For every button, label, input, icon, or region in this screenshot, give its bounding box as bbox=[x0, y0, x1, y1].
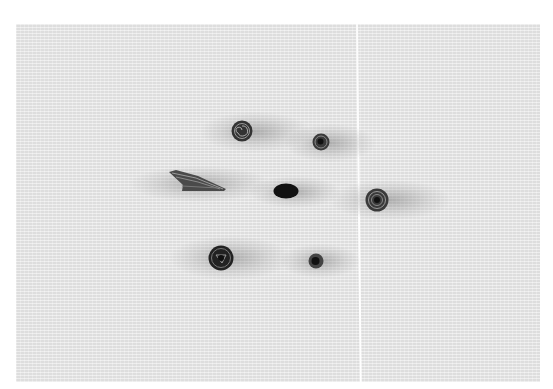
paper-wing-shape-icon bbox=[168, 169, 228, 193]
paper-coil-icon bbox=[308, 253, 324, 269]
paper-coil-icon bbox=[231, 120, 253, 142]
coil-shadow bbox=[330, 180, 450, 220]
paper-coil-icon bbox=[365, 188, 389, 212]
paper-coil-icon bbox=[312, 133, 330, 151]
paper-coil-icon bbox=[208, 245, 234, 271]
coil-shadow bbox=[285, 124, 375, 162]
paper-oval-shape-icon bbox=[273, 183, 299, 199]
